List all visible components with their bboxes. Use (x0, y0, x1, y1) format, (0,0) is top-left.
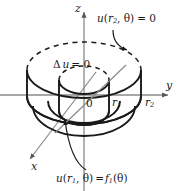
laplacian-icon: Δ (53, 58, 61, 70)
pde-label: Δu= 0 (53, 59, 90, 70)
outer-bc-theta: , θ) (117, 12, 134, 24)
inner-bc-theta: , θ) (76, 172, 93, 184)
axis-group (0, 12, 168, 191)
figure-canvas: z y x 0 r1 r2 Δu= 0 u(r2, θ)= 0 u(r1, θ)… (0, 0, 182, 191)
outer-bc-value: = 0 (137, 12, 156, 24)
outer-radius-label: r2 (145, 97, 154, 109)
origin-label: 0 (86, 98, 93, 109)
outer-bc-function: u (97, 12, 104, 24)
inner-bc-function: u (56, 172, 63, 184)
z-axis-label: z (75, 3, 81, 14)
x-axis-label: x (31, 161, 37, 172)
outer-boundary-condition-label: u(r2, θ)= 0 (97, 13, 156, 25)
pde-equals-zero: = 0 (71, 58, 90, 70)
inner-bc-leader (65, 120, 86, 170)
y-axis-label: y (166, 80, 172, 91)
inner-bc-equals: = (95, 172, 104, 184)
outer-radius-subscript: 2 (150, 101, 154, 109)
pde-function: u (63, 58, 70, 70)
outer-bc-leader (113, 30, 127, 50)
inner-radius-label: r1 (112, 97, 121, 109)
inner-boundary-condition-label: u(r1, θ)=f1(θ) (56, 173, 128, 185)
x-axis (30, 72, 96, 159)
inner-radius-subscript: 1 (117, 101, 121, 109)
inner-bc-rhs-arg: (θ) (113, 172, 128, 184)
diagram-svg (0, 0, 182, 191)
